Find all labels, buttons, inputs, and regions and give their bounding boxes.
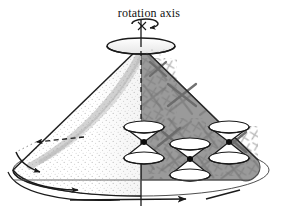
cone-left-half [13,46,141,196]
rotation-axis-label: rotation axis [99,6,199,21]
figure-canvas [0,0,288,212]
rotation-cone-figure: rotation axis [0,0,288,212]
